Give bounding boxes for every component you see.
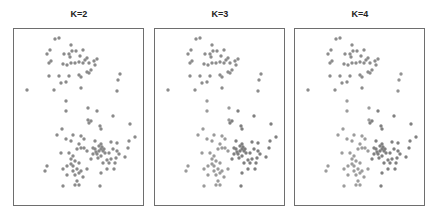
data-point	[390, 157, 393, 160]
data-point	[60, 127, 63, 130]
data-point	[68, 55, 71, 58]
data-point	[360, 134, 363, 137]
data-point	[61, 167, 64, 170]
data-point	[218, 60, 221, 63]
data-point	[89, 68, 92, 71]
data-point	[212, 133, 215, 136]
data-point	[222, 175, 225, 178]
data-point	[352, 133, 355, 136]
data-point	[206, 63, 209, 66]
data-point	[345, 137, 348, 140]
data-point	[230, 68, 233, 71]
data-point	[227, 106, 230, 109]
data-point	[87, 61, 90, 64]
data-point	[240, 154, 243, 157]
data-point	[238, 144, 241, 147]
data-point	[396, 149, 399, 152]
data-point	[210, 157, 213, 160]
data-point	[208, 74, 211, 77]
data-point	[73, 183, 76, 186]
data-point	[366, 70, 369, 73]
data-point	[254, 161, 257, 164]
data-point	[79, 75, 82, 78]
data-point	[74, 49, 77, 52]
data-point	[86, 118, 89, 121]
data-point	[367, 118, 370, 121]
data-point	[234, 63, 237, 66]
data-point	[25, 88, 28, 91]
data-point	[61, 184, 64, 187]
data-point	[398, 152, 401, 155]
data-point	[216, 167, 219, 170]
data-point	[356, 147, 359, 150]
data-point	[188, 74, 191, 77]
data-point	[394, 161, 397, 164]
data-point	[256, 89, 259, 92]
data-point	[360, 146, 363, 149]
data-point	[343, 52, 346, 55]
data-point	[65, 173, 68, 176]
data-point	[239, 124, 242, 127]
data-point	[356, 179, 359, 182]
data-point	[186, 164, 189, 167]
data-point	[98, 124, 101, 127]
data-point	[205, 80, 208, 83]
panel-title-k2: K=2	[13, 9, 145, 19]
data-point	[64, 99, 67, 102]
data-point	[105, 167, 108, 170]
data-point	[222, 61, 225, 64]
data-point	[85, 167, 88, 170]
data-point	[214, 61, 217, 64]
data-point	[354, 159, 357, 162]
data-point	[200, 151, 203, 154]
data-point	[350, 61, 353, 64]
data-point	[346, 173, 349, 176]
data-point	[57, 74, 60, 77]
data-point	[236, 109, 239, 112]
data-point	[102, 147, 105, 150]
data-point	[113, 161, 116, 164]
data-point	[77, 161, 80, 164]
data-point	[67, 151, 70, 154]
data-point	[205, 137, 208, 140]
data-point	[242, 161, 245, 164]
data-point	[250, 140, 253, 143]
data-point	[206, 173, 209, 176]
data-point	[79, 86, 82, 89]
data-point	[360, 86, 363, 89]
data-point	[83, 58, 86, 61]
data-point	[85, 70, 88, 73]
data-point	[374, 63, 377, 66]
data-point	[349, 55, 352, 58]
data-point	[75, 179, 78, 182]
data-point	[186, 52, 189, 55]
data-point	[354, 173, 357, 176]
data-point	[380, 171, 383, 174]
data-point	[244, 151, 247, 154]
data-point	[248, 161, 251, 164]
data-point	[92, 59, 95, 62]
data-point	[43, 169, 46, 172]
data-point	[210, 61, 213, 64]
data-point	[259, 72, 262, 75]
data-point	[379, 124, 382, 127]
data-point	[219, 54, 222, 57]
data-point	[201, 127, 204, 130]
data-point	[202, 184, 205, 187]
data-point	[89, 157, 92, 160]
data-point	[243, 147, 246, 150]
data-point	[73, 159, 76, 162]
data-point	[352, 154, 355, 157]
data-point	[198, 36, 201, 39]
data-point	[237, 156, 240, 159]
data-point	[253, 167, 256, 170]
data-point	[69, 43, 72, 46]
data-point	[362, 61, 365, 64]
data-point	[109, 140, 112, 143]
data-point	[67, 74, 70, 77]
data-point	[378, 144, 381, 147]
data-point	[69, 157, 72, 160]
data-point	[264, 155, 267, 158]
data-point	[61, 62, 64, 65]
data-point	[345, 99, 348, 102]
